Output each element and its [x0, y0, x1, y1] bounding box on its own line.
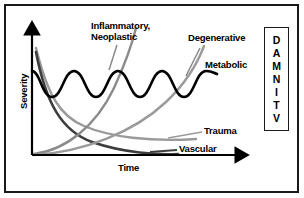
mnemonic-letter-t: T — [273, 99, 279, 112]
curve-label-metabolic: Metabolic — [205, 60, 247, 71]
leader-line-vascular — [150, 150, 177, 152]
y-axis-label: Severity — [19, 61, 30, 121]
mnemonic-letter-v: V — [273, 112, 280, 125]
curve-trauma — [36, 48, 196, 140]
x-axis-label: Time — [118, 163, 139, 174]
mnemonic-letter-a: A — [273, 47, 281, 60]
curve-label-vascular: Vascular — [179, 144, 217, 155]
mnemonic-letter-m: M — [272, 60, 281, 73]
mnemonic-letter-n: N — [273, 73, 281, 86]
figure-container: Inflammatory, Neoplastic Degenerative Me… — [0, 0, 304, 198]
leader-line-trauma — [168, 132, 202, 138]
curve-label-trauma: Trauma — [204, 126, 237, 137]
curve-label-inflammatory-line2: Neoplastic — [91, 32, 150, 43]
leader-line-inflammatory — [109, 45, 117, 70]
mnemonic-letter-d: D — [273, 34, 281, 47]
curve-label-degenerative: Degenerative — [188, 33, 245, 44]
mnemonic-letter-i: I — [275, 86, 278, 99]
damnitv-mnemonic-box: DAMNITV — [264, 27, 289, 131]
chart-plot-area — [0, 0, 304, 198]
curve-label-inflammatory-neoplastic: Inflammatory, Neoplastic — [91, 21, 150, 42]
